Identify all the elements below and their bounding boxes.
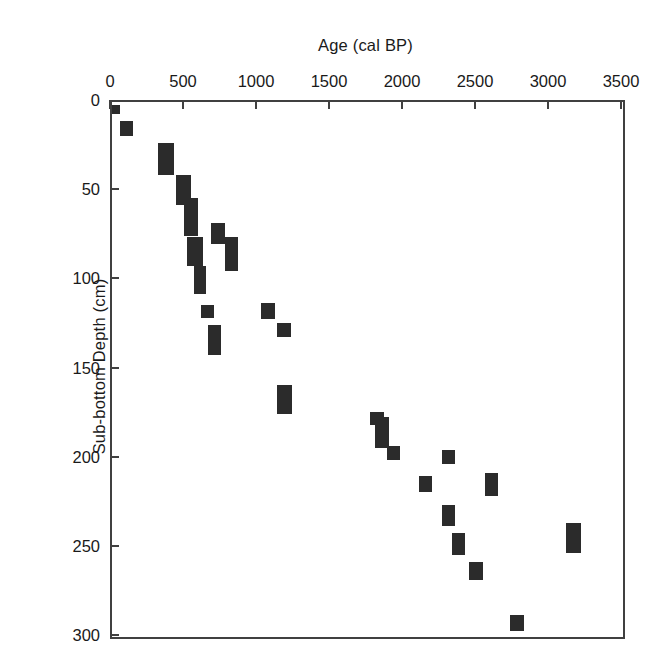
data-point-marker (277, 385, 292, 414)
x-axis-tick-label: 2000 (384, 72, 421, 91)
data-point-marker (225, 237, 239, 271)
data-point-marker (211, 223, 225, 244)
data-point-marker (158, 143, 173, 163)
data-point-marker (194, 266, 206, 295)
y-axis-tick-label: 250 (52, 536, 100, 555)
y-axis-tick (110, 367, 119, 369)
x-axis-tick-label: 3500 (603, 72, 640, 91)
y-axis-tick-label: 0 (52, 91, 100, 110)
data-point-marker (452, 533, 466, 554)
x-axis-tick-label: 0 (105, 72, 114, 91)
data-point-marker (510, 615, 524, 631)
y-axis-tick-label: 100 (52, 269, 100, 288)
x-axis-tick (474, 100, 476, 109)
x-axis-tick-label: 1000 (238, 72, 275, 91)
y-axis-tick (110, 634, 119, 636)
y-axis-tick-label: 50 (52, 180, 100, 199)
data-point-marker (375, 417, 389, 447)
data-point-marker (187, 237, 202, 266)
x-axis-tick (328, 100, 330, 109)
x-axis-tick (255, 100, 257, 109)
y-axis-tick-label: 150 (52, 358, 100, 377)
data-point-marker (158, 162, 173, 174)
data-point-marker (277, 323, 291, 337)
x-axis-tick (401, 100, 403, 109)
data-point-marker (201, 305, 214, 317)
x-axis-tick-label: 3000 (530, 72, 567, 91)
y-axis-tick (110, 545, 119, 547)
data-point-marker (419, 476, 432, 492)
x-axis-tick-label: 500 (169, 72, 197, 91)
data-point-marker (387, 446, 400, 460)
x-axis-tick-label: 2500 (457, 72, 494, 91)
y-axis-tick-label: 200 (52, 447, 100, 466)
data-point-marker (112, 105, 120, 114)
x-axis-title: Age (cal BP) (110, 36, 621, 55)
age-depth-scatter-figure: Age (cal BP) Sub-bottom Depth (cm) 05001… (0, 0, 668, 666)
data-point-marker (442, 505, 455, 526)
data-point-marker (485, 473, 498, 496)
y-axis-tick (110, 188, 119, 190)
data-point-marker (184, 214, 198, 235)
y-axis-tick (110, 277, 119, 279)
x-axis-tick-label: 1500 (311, 72, 348, 91)
data-point-marker (442, 450, 455, 464)
data-point-marker (208, 325, 221, 355)
data-point-marker (469, 562, 483, 580)
data-point-marker (566, 523, 581, 553)
data-point-marker (261, 303, 275, 319)
x-axis-tick (109, 100, 111, 109)
x-axis-tick (620, 100, 622, 109)
x-axis-tick (182, 100, 184, 109)
x-axis-tick (547, 100, 549, 109)
y-axis-tick (110, 456, 119, 458)
y-axis-tick-label: 300 (52, 626, 100, 645)
data-point-marker (120, 121, 133, 135)
